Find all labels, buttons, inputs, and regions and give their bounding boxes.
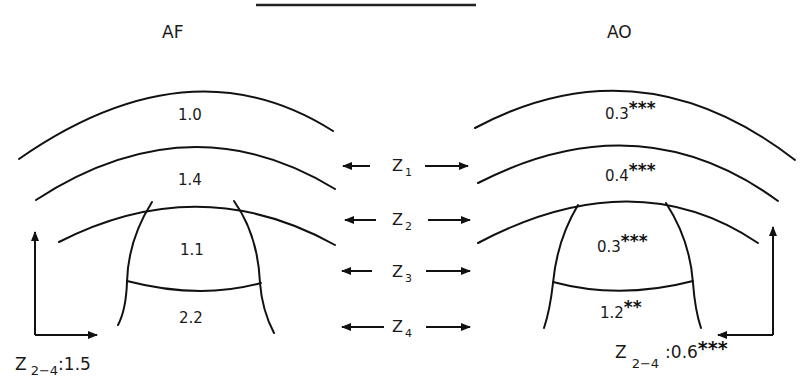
zone-arrow-z2: Z2 xyxy=(345,210,470,233)
chamber-left-wall xyxy=(544,205,578,328)
arc-inner xyxy=(59,207,335,245)
chamber-divider xyxy=(553,281,693,291)
svg-text:Z2: Z2 xyxy=(392,210,412,233)
chamber-left-wall xyxy=(118,202,152,325)
panel-label-ao: AO xyxy=(607,22,632,42)
zone-value-z3: 1.1 xyxy=(180,241,204,259)
zone-value-z4: 2.2 xyxy=(179,309,203,327)
svg-text:Z3: Z3 xyxy=(392,262,412,285)
chamber-divider xyxy=(127,281,261,291)
chamber-right-wall xyxy=(666,203,701,328)
center-zone-labels: Z1 Z2 Z3 Z4 xyxy=(342,156,470,340)
zone-arrow-z1: Z1 xyxy=(343,156,468,179)
zone-value-z3: 0.3*** xyxy=(597,231,648,256)
panel-label-af: AF xyxy=(162,22,183,42)
zone-value-z2: 0.4*** xyxy=(605,160,656,185)
panel-af: AF 1.0 1.4 1.1 2.2 Z2−4:1.5 xyxy=(15,22,335,378)
arc-inner xyxy=(478,202,758,244)
zone-arrow-z4: Z4 xyxy=(342,317,470,340)
ratio-label-af: Z2−4:1.5 xyxy=(15,354,91,378)
svg-text:Z4: Z4 xyxy=(392,317,412,340)
panel-ao: AO 0.3*** 0.4*** 0.3*** 1.2** Z2−4:0.6**… xyxy=(475,22,795,371)
zone-value-z2: 1.4 xyxy=(178,171,202,189)
ratio-label-ao: Z2−4:0.6*** xyxy=(615,337,728,371)
zone-value-z4: 1.2** xyxy=(600,297,642,322)
svg-text:Z1: Z1 xyxy=(392,156,412,179)
zone-diagram: AF 1.0 1.4 1.1 2.2 Z2−4:1.5 Z1 Z2 xyxy=(0,0,810,384)
zone-value-z1: 1.0 xyxy=(178,106,202,124)
zone-value-z1: 0.3*** xyxy=(605,98,656,123)
chamber-right-wall xyxy=(234,201,274,333)
zone-arrow-z3: Z3 xyxy=(342,262,470,285)
